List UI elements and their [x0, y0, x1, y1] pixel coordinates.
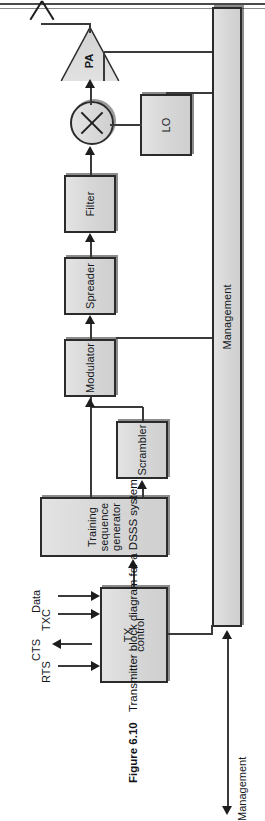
antenna-icon	[26, 0, 56, 23]
line-management-to-modulator	[116, 337, 212, 339]
block-tsg-label-line2: generator	[110, 500, 122, 553]
line-management-to-txcontrol	[168, 633, 212, 635]
block-spreader[interactable]: Spreader	[64, 257, 116, 315]
figure-caption-text: Transmitter block diagram for a DSSS sys…	[127, 476, 139, 712]
port-label-management: Management	[236, 756, 248, 820]
antenna-stroke-upper	[41, 0, 54, 20]
block-modulator[interactable]: Modulator	[64, 339, 116, 397]
block-local-oscillator[interactable]: LO	[140, 94, 192, 156]
block-spreader-label: Spreader	[83, 260, 95, 310]
line-tsg-to-modulator	[90, 397, 92, 497]
port-label-rts: RTS	[40, 661, 52, 683]
block-tsg-label-line1: Training sequence	[85, 500, 110, 553]
line-management-to-lo	[166, 92, 212, 94]
line-scrambler-to-modulator	[142, 407, 144, 421]
block-filter[interactable]: Filter	[64, 175, 116, 233]
arrow-mixer-to-pa	[85, 79, 95, 88]
antenna-feed-line	[41, 23, 90, 25]
figure-number: Figure 6.10	[127, 722, 139, 783]
block-training-sequence-generator[interactable]: Training sequence generator	[40, 497, 168, 557]
line-spreader-to-filter	[90, 241, 92, 257]
line-lo-to-mixer	[110, 124, 142, 126]
block-pa-label: PA	[83, 48, 95, 74]
figure-caption: Figure 6.10 Transmitter block diagram fo…	[127, 353, 139, 783]
line-port-cts	[58, 643, 92, 645]
block-management-label: Management	[220, 282, 232, 351]
arrow-port-data	[91, 591, 100, 601]
port-label-cts: CTS	[30, 639, 42, 661]
line-port-data	[58, 595, 92, 597]
block-lo-label: LO	[159, 115, 171, 134]
line-port-rts	[58, 665, 92, 667]
antenna-stroke-lower	[29, 0, 42, 20]
arrow-port-management-in	[222, 630, 232, 639]
line-modulator-to-spreader	[90, 323, 92, 339]
block-filter-label: Filter	[83, 189, 95, 218]
line-management-txcontrol-stub	[211, 625, 213, 635]
line-filter-to-mixer	[90, 153, 92, 175]
block-management[interactable]: Management	[212, 7, 242, 627]
arrow-port-rts	[91, 661, 100, 671]
arrow-scrambler-to-modulator	[85, 398, 95, 407]
line-port-txc	[58, 613, 92, 615]
line-port-management	[227, 633, 229, 809]
pa-to-antenna-line	[89, 23, 91, 33]
arrow-port-management-out	[222, 806, 232, 815]
arrow-port-txc	[91, 609, 100, 619]
block-modulator-label: Modulator	[83, 341, 95, 395]
block-power-amplifier[interactable]: PA	[62, 29, 118, 81]
arrow-modulator-to-spreader	[85, 315, 95, 324]
line-management-to-pa	[104, 51, 212, 53]
line-management-pa-stub	[103, 52, 105, 81]
arrow-port-cts	[52, 639, 61, 649]
block-scrambler[interactable]: Scrambler	[116, 421, 168, 479]
arrow-spreader-to-filter	[85, 233, 95, 242]
block-mixer[interactable]	[70, 101, 114, 145]
arrow-filter-to-mixer	[85, 146, 95, 155]
port-label-data: Data	[30, 589, 42, 612]
